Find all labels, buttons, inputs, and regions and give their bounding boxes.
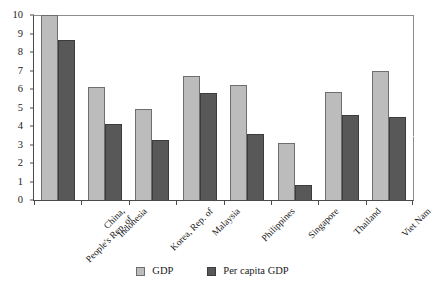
bar-group [278, 15, 312, 200]
bar-group [183, 15, 217, 200]
bars-layer [34, 15, 413, 200]
y-axis-tick-label: 10 [13, 10, 24, 21]
bar-per-capita-gdp [105, 124, 122, 200]
x-axis-tick-mark [81, 201, 82, 205]
bar-group [135, 15, 169, 200]
x-axis-category-label: Viet Nam [400, 206, 433, 239]
bar-gdp [230, 85, 247, 200]
x-axis-category-label-line: Korea, Rep. of [169, 206, 216, 253]
bar-gdp [41, 15, 58, 200]
chart-legend: GDPPer capita GDP [0, 262, 425, 280]
legend-label: Per capita GDP [223, 266, 288, 277]
x-axis-category-labels: China,People's Rep. ofIndonesiaKorea, Re… [34, 206, 413, 264]
x-axis-tick-mark [224, 201, 225, 205]
x-axis-category-label: Thailand [352, 206, 383, 237]
bar-per-capita-gdp [247, 134, 264, 200]
y-axis-tick-labels: 012345678910 [0, 15, 29, 201]
x-axis-tick-mark [318, 201, 319, 205]
bar-gdp [88, 87, 105, 200]
x-axis-category-label: Malaysia [210, 206, 242, 238]
bar-group [325, 15, 359, 200]
bar-group [372, 15, 406, 200]
legend-swatch-icon [207, 267, 216, 276]
y-axis-tick-label: 8 [18, 47, 23, 58]
bar-gdp [183, 76, 200, 200]
bar-per-capita-gdp [342, 115, 359, 200]
x-axis-tick-mark [412, 201, 413, 205]
bar-gdp [135, 109, 152, 200]
legend-swatch-icon [136, 267, 145, 276]
bar-gdp [325, 92, 342, 200]
x-axis-tick-mark [366, 201, 367, 205]
x-axis-category-label-line: Philippines [260, 206, 297, 243]
x-axis-tick-mark [176, 201, 177, 205]
x-axis-tick-mark [34, 201, 35, 205]
y-axis-tick-label: 4 [18, 121, 23, 132]
legend-label: GDP [152, 266, 173, 277]
y-axis-tick-label: 3 [18, 139, 23, 150]
legend-item-gdp[interactable]: GDP [136, 266, 173, 277]
y-axis-tick-label: 2 [18, 158, 23, 169]
x-axis-category-label: Korea, Rep. of [169, 206, 216, 253]
x-axis-category-label-line: Viet Nam [400, 206, 433, 239]
x-axis-category-label: Singapore [306, 206, 341, 241]
bar-group [88, 15, 122, 200]
y-axis-tick-label: 6 [18, 84, 23, 95]
bar-gdp [278, 143, 295, 200]
y-axis-tick-label: 9 [18, 28, 23, 39]
y-axis-tick-label: 7 [18, 65, 23, 76]
y-axis-tick-label: 0 [18, 195, 23, 206]
bar-group [41, 15, 75, 200]
x-axis-category-label-line: Thailand [352, 206, 383, 237]
y-axis-tick-label: 5 [18, 102, 23, 113]
legend-item-per-capita-gdp[interactable]: Per capita GDP [207, 266, 288, 277]
bar-group [230, 15, 264, 200]
bar-per-capita-gdp [152, 140, 169, 200]
bar-per-capita-gdp [295, 185, 312, 200]
x-axis-category-label-line: Malaysia [210, 206, 242, 238]
x-axis-tick-mark [271, 201, 272, 205]
bar-gdp [372, 71, 389, 201]
x-axis-category-label: Philippines [260, 206, 298, 244]
bar-per-capita-gdp [389, 117, 406, 200]
y-axis-tick-label: 1 [18, 176, 23, 187]
x-axis-tick-mark [129, 201, 130, 205]
x-axis-category-label-line: Singapore [306, 206, 340, 240]
bar-per-capita-gdp [200, 93, 217, 200]
bar-per-capita-gdp [58, 40, 75, 200]
